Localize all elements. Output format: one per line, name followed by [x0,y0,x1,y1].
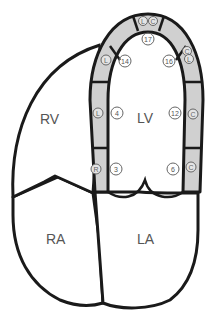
svg-text:L: L [96,110,100,117]
svg-text:4: 4 [115,110,119,117]
svg-text:C: C [190,111,195,118]
left-atrium-shape [95,192,198,308]
chamber-label-ra: RA [46,231,66,247]
artery-marker-rca-basal-septal: R [91,164,101,174]
svg-text:C: C [150,18,155,25]
svg-text:L: L [187,56,191,63]
svg-text:L: L [141,18,145,25]
chamber-label-la: LA [137,231,155,247]
artery-marker-lad-apical-septal: L [101,55,111,65]
chamber-label-lv: LV [137,110,154,126]
svg-text:14: 14 [121,58,129,65]
svg-text:17: 17 [144,36,152,43]
svg-text:6: 6 [171,166,175,173]
artery-marker-lcx-apex: C [149,17,158,26]
svg-text:C: C [184,48,189,55]
chamber-label-rv: RV [40,111,60,127]
artery-marker-lad-apex: L [139,17,148,26]
svg-text:16: 16 [165,58,173,65]
svg-text:R: R [93,166,98,173]
artery-marker-lad-mid-septal: L [93,108,103,118]
artery-marker-lad-apical-lateral: L [185,55,194,64]
artery-marker-lcx-basal-lateral: C [186,162,196,172]
artery-marker-lcx-mid-lateral: C [188,109,198,119]
svg-text:L: L [104,57,108,64]
apical-four-chamber-diagram: RV LV RA LA 17 14 16 4 12 3 6 L C L [0,0,212,322]
svg-text:3: 3 [114,166,118,173]
svg-text:C: C [188,164,193,171]
svg-text:12: 12 [171,110,179,117]
